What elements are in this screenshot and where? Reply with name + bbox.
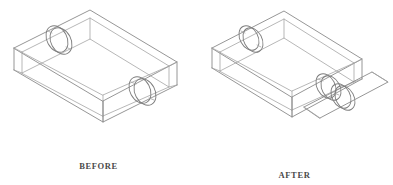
before-box-inner-rim (22, 18, 169, 95)
after-hole-left (235, 22, 267, 55)
before-box-bottom-silhouette (14, 70, 177, 122)
after-figure (212, 11, 388, 118)
before-figure (14, 10, 177, 122)
before-box-back-edges (14, 48, 177, 87)
caption-after: AFTER (196, 170, 393, 180)
after-box-bottom-silhouette (212, 68, 362, 117)
before-box-top-rim (14, 10, 177, 101)
after-box-back-edges (212, 48, 362, 82)
caption-before: BEFORE (0, 161, 197, 171)
figure-canvas (0, 0, 393, 185)
